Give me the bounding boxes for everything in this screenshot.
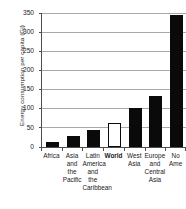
bar-europe-and-central-asia — [149, 96, 162, 147]
y-tick-label-300: 300 — [23, 29, 34, 36]
y-tick-label-0: 0 — [30, 144, 34, 151]
x-label-west-asia: WestAsia — [124, 152, 145, 168]
bar-north-america — [170, 15, 183, 147]
x-tick-0 — [41, 148, 42, 151]
bar-west-asia — [129, 108, 142, 147]
bar-series — [42, 13, 186, 147]
x-label-world: World — [103, 152, 124, 160]
x-tick-6 — [165, 148, 166, 151]
x-tick-7 — [185, 148, 186, 151]
x-label-asia-and-the-pacific: AsiaandthePacific — [62, 152, 83, 184]
y-tick-label-150: 150 — [23, 86, 34, 93]
bar-asia-and-the-pacific — [67, 136, 80, 147]
y-tick-label-200: 200 — [23, 67, 34, 74]
plot-area — [41, 13, 186, 147]
x-tick-3 — [103, 148, 104, 151]
bar-world — [108, 123, 121, 148]
x-axis-category-labels: AfricaAsiaandthePacificLatinAmericaandth… — [41, 152, 186, 209]
bar-chart: Energy consumption per capita (Gj) 05010… — [0, 0, 186, 209]
y-axis-tick-labels: 050100150200250300350 — [0, 13, 38, 147]
x-label-africa: Africa — [41, 152, 62, 160]
bar-latin-america-and-the-caribbean — [87, 130, 100, 147]
x-axis-ticks — [41, 148, 186, 151]
x-tick-5 — [145, 148, 146, 151]
x-label-north-america: NoAme — [165, 152, 186, 168]
y-tick-label-250: 250 — [23, 48, 34, 55]
x-label-europe-and-central-asia: EuropeandCentralAsia — [145, 152, 166, 184]
y-tick-label-50: 50 — [27, 125, 34, 132]
x-label-latin-america-and-the-caribbean: LatinAmericaandtheCaribbean — [82, 152, 103, 192]
x-tick-1 — [62, 148, 63, 151]
x-tick-2 — [82, 148, 83, 151]
y-tick-label-100: 100 — [23, 105, 34, 112]
y-tick-label-350: 350 — [23, 10, 34, 17]
x-tick-4 — [124, 148, 125, 151]
